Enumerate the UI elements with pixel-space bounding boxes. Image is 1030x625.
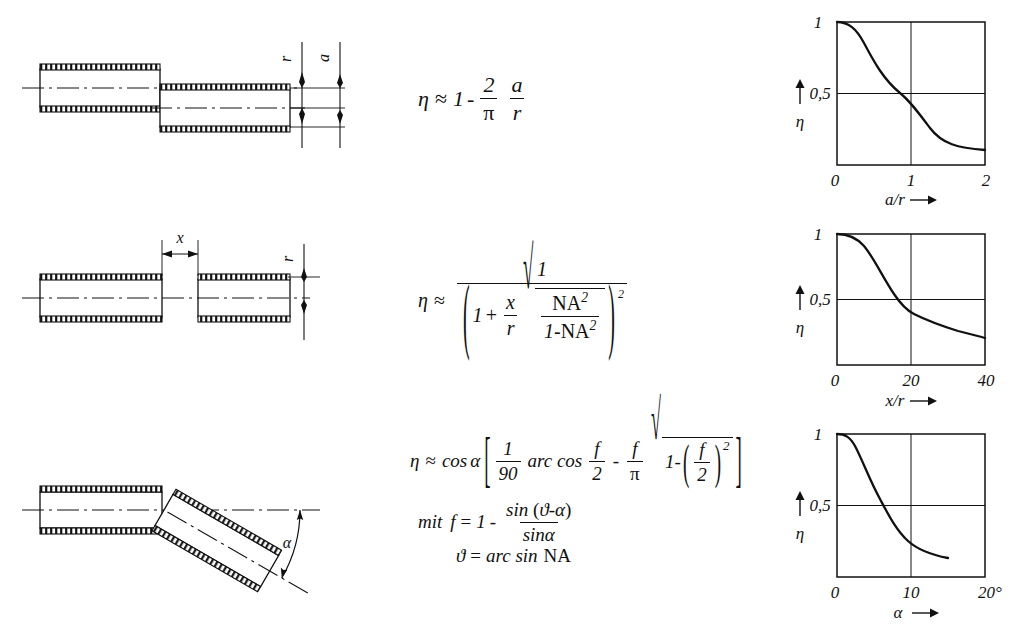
tilt-right-fiber-group	[152, 489, 320, 614]
tilt-left-fiber-cladding-top	[40, 486, 162, 492]
formula1-one: 1	[453, 86, 464, 111]
formula3-eta: η	[410, 450, 419, 472]
formula3-line3-na: NA	[544, 545, 571, 567]
chart-eta-vs-x-over-r: 1 0,5 η 0 20 40 x/r	[790, 210, 1030, 415]
left-fiber-cladding-top	[40, 64, 160, 70]
formula3-frac-f-2b: f 2	[694, 439, 710, 486]
row-angular-misalignment: α η ≈ cos α [ 1 90 arc cos f	[0, 415, 1030, 625]
chart3-yaxis-arrowhead	[796, 491, 805, 500]
dim-arrow-a-top	[337, 74, 343, 88]
chart2-ytick-05: 0,5	[809, 290, 830, 309]
chart1-ylabel: η	[796, 112, 804, 131]
chart3-ylabel: η	[796, 524, 804, 543]
formula3-frac-sin: sin (ϑ-α) sinα	[503, 499, 574, 546]
formula3-paren-close: )	[715, 434, 721, 491]
chart1-xaxis-arrowhead	[928, 196, 937, 205]
right-fiber-cladding-bottom	[160, 126, 290, 132]
formula2-inner-one: 1	[473, 304, 483, 327]
gap-right-fiber-cladding-bottom	[198, 316, 290, 322]
formula3-line2-one: 1	[476, 511, 486, 533]
formula3-sin-num: sin	[506, 499, 528, 520]
formula3-one-minus: 1-	[665, 451, 681, 473]
gap-dim-label-r: r	[279, 255, 296, 262]
chart1-xtick-0: 0	[831, 171, 840, 190]
formula2-plus: +	[485, 304, 499, 327]
chart3-xtick-10: 10	[903, 583, 921, 602]
formula3-exp2: 2	[723, 439, 729, 454]
formula2-approx: ≈	[434, 289, 445, 312]
fiber-gap-diagram: x r	[0, 210, 400, 415]
formula3-arccos: arc cos	[528, 450, 583, 472]
chart2-xtick-20: 20	[903, 371, 921, 390]
row-longitudinal-gap: x r η ≈ 1 (	[0, 210, 1030, 415]
gap-right-fiber-cladding-top	[198, 274, 290, 280]
left-fiber-cladding-bottom	[40, 106, 160, 112]
formula3-paren-open: (	[683, 434, 689, 491]
chart2-xtick-0: 0	[831, 371, 840, 390]
figure-page: r a η ≈ 1 - 2 π	[0, 0, 1030, 625]
chart-eta-vs-alpha: 1 0,5 η 0 10 20° α	[790, 415, 1030, 625]
gap-dim-arrow-left	[162, 251, 172, 258]
formula1-r: r	[510, 98, 525, 125]
gap-dim-arrow-right	[188, 251, 198, 258]
formula2-na-num-exp: 2	[581, 290, 588, 305]
formula3-f-b: f	[629, 438, 640, 461]
formula3-bracket-open: [	[484, 426, 490, 496]
formula3-line2-minus: -	[490, 511, 496, 533]
formula3-theta: ϑ	[539, 499, 548, 520]
formula2-r: r	[504, 315, 518, 340]
chart2-ytick-1: 1	[814, 225, 823, 244]
chart3-curve	[837, 434, 948, 558]
formula2-frac-x-r: x r	[503, 291, 518, 340]
formula3-line3-eq: =	[470, 545, 481, 567]
formula2-main-frac: 1 ( 1 + x r √	[457, 258, 627, 342]
chart2-xtick-40: 40	[978, 371, 996, 390]
chart1-ytick-05: 0,5	[809, 84, 830, 103]
formula1-eta: η	[418, 86, 429, 111]
formula2-na-num: NA	[552, 292, 581, 314]
chart3-xtick-20: 20°	[978, 583, 1002, 602]
formula3-f-a: f	[591, 438, 602, 461]
chart1-xlabel: a/r	[885, 190, 905, 209]
formula2-sqrt-outer: √ NA2 1-NA2	[523, 288, 605, 342]
tilt-angle-label: α	[283, 534, 292, 551]
formula3-one: 1	[500, 438, 516, 461]
chart1-xtick-2: 2	[982, 171, 991, 190]
dim-arrow-a-bottom	[337, 110, 343, 124]
gap-dim-arrow-r-top	[301, 268, 307, 282]
formula3-two-a: 2	[589, 461, 605, 485]
formula3-frac-f-pi: f π	[627, 438, 643, 485]
formula1-pi: π	[480, 98, 497, 125]
formula2-paren-open: (	[463, 267, 470, 364]
chart3-ytick-1: 1	[814, 425, 823, 444]
chart2-xlabel: x/r	[885, 391, 905, 410]
formula2-paren-close: )	[608, 267, 615, 364]
formula3-sqrt: √ 1- ( f 2 ) 2	[651, 437, 733, 486]
chart3-xtick-0: 0	[831, 583, 840, 602]
chart3-xlabel: α	[894, 603, 904, 622]
formula2-x: x	[503, 291, 518, 315]
formula2-outer-exp: 2	[618, 288, 624, 302]
gap-dim-label-x: x	[175, 229, 183, 246]
chart1-yaxis-arrowhead	[796, 79, 805, 88]
formula3-ninety: 90	[496, 461, 521, 485]
chart-eta-vs-a-over-r: 1 0,5 η 0 1 2 a/r	[790, 0, 1030, 210]
dim-label-a: a	[315, 54, 332, 62]
formula3-pi: π	[627, 461, 643, 485]
formula2-na-den: NA	[561, 319, 590, 341]
formula3-line2-f: f	[450, 511, 455, 533]
fiber-angular-misalignment-diagram: α	[0, 415, 400, 625]
chart1-ytick-1: 1	[814, 13, 823, 32]
formula3-line3-theta: ϑ	[456, 545, 465, 567]
dim-arrow-r-top	[299, 72, 305, 88]
formula3-frac-1-90: 1 90	[496, 438, 521, 485]
formula3-line2-eq: =	[461, 511, 472, 533]
chart2-ylabel: η	[796, 318, 804, 337]
formula3-line3-arcsin: arc sin	[486, 545, 538, 567]
formula3-cos: cos	[442, 450, 467, 472]
formula3-frac-f-2: f 2	[589, 438, 605, 485]
formula1-a: a	[508, 72, 525, 98]
formula1-frac-2-pi: 2 π	[480, 72, 497, 126]
formula3-alpha: α	[470, 450, 480, 472]
chart2-yaxis-arrowhead	[796, 285, 805, 294]
